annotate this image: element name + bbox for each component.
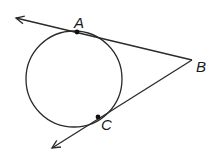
tangent-circle-diagram: A B C bbox=[0, 0, 214, 160]
label-b: B bbox=[196, 58, 206, 75]
ray-ba-tangent-line bbox=[16, 18, 192, 60]
label-a: A bbox=[73, 14, 84, 31]
point-c-dot bbox=[96, 115, 101, 120]
label-c: C bbox=[101, 116, 112, 133]
arrowhead-icon bbox=[52, 140, 61, 148]
